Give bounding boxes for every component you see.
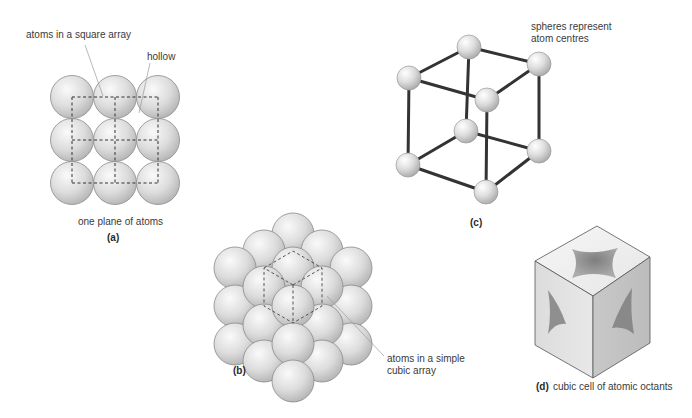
panel-label-c: (c) — [470, 217, 482, 228]
caption-octants: cubic cell of atomic octants — [553, 381, 673, 393]
atom-centres — [396, 35, 551, 204]
annotation-spheres-line2: atom centres — [531, 33, 589, 45]
panel-a-square-array — [51, 45, 180, 205]
panel-label-d: (d) — [536, 381, 549, 392]
caption-one-plane: one plane of atoms — [78, 216, 163, 228]
panel-label-b: (b) — [233, 365, 246, 376]
panel-c-ball-and-stick-cube — [396, 35, 551, 204]
panel-label-a: (a) — [107, 232, 119, 243]
panel-d-octant-cube — [535, 226, 650, 378]
hollow-top — [572, 248, 618, 278]
atom-sphere — [137, 162, 180, 205]
annotation-square-array: atoms in a square array — [26, 29, 131, 41]
figure-canvas — [0, 0, 692, 418]
annotation-hollow: hollow — [147, 51, 175, 63]
annotation-spheres-line1: spheres represent — [531, 21, 612, 33]
annotation-cubic-array-line1: atoms in a simple — [387, 353, 465, 365]
annotation-cubic-array-line2: cubic array — [387, 365, 436, 377]
cube-bonds — [408, 47, 539, 192]
